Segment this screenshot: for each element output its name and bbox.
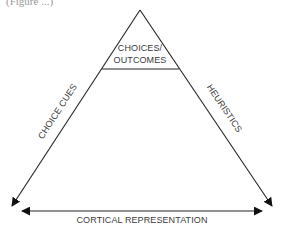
triangle-diagram: CHOICES/ OUTCOMES CHOICE CUES HEURISTICS… (0, 0, 282, 229)
right-side-label: HEURISTICS (205, 82, 244, 134)
apex-label-line2: OUTCOMES (114, 55, 167, 65)
left-side-label: CHOICE CUES (36, 82, 79, 141)
left-side-arrow (12, 10, 140, 206)
right-side-arrow (140, 10, 272, 206)
base-label: CORTICAL REPRESENTATION (77, 215, 208, 225)
apex-label-line1: CHOICES/ (118, 43, 163, 53)
